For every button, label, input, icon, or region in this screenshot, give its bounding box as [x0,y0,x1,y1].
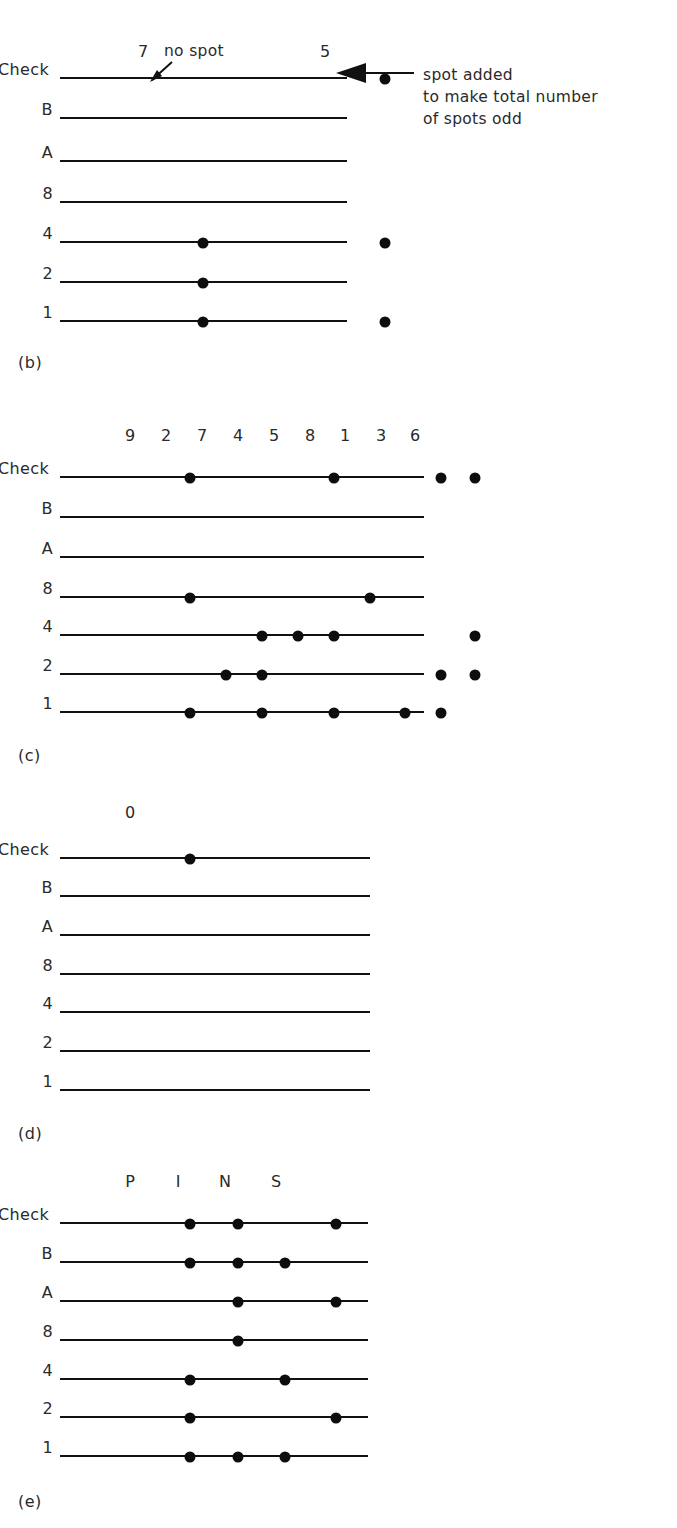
spot [280,1375,291,1386]
column-header: 2 [161,428,171,444]
panel-caption: (c) [18,748,41,764]
spot [470,473,481,484]
spot [185,473,196,484]
row-label: 2 [42,1035,53,1051]
row-label: 8 [42,581,53,597]
spot [436,708,447,719]
spot [185,1219,196,1230]
row-label: B [42,501,53,517]
track-line: 1 [60,1455,368,1457]
spot [185,1413,196,1424]
track-line: 1 [60,711,424,713]
track-line: A [60,934,370,936]
spot [329,473,340,484]
spot [436,473,447,484]
track-line: 1 [60,1089,370,1091]
spot [185,593,196,604]
row-label: Check [0,842,49,858]
spot [436,670,447,681]
spot [470,670,481,681]
track-line: B [60,895,370,897]
spot [331,1297,342,1308]
row-label: 2 [42,1401,53,1417]
spot [400,708,411,719]
track-line: 4 [60,634,424,636]
column-header: 6 [410,428,420,444]
track-line: 8 [60,973,370,975]
row-label: 4 [42,619,53,635]
column-header: 8 [305,428,315,444]
column-header: 7 [197,428,207,444]
spot [185,1375,196,1386]
track-line: B [60,516,424,518]
column-header: 3 [376,428,386,444]
row-label: 8 [42,1324,53,1340]
spot [233,1297,244,1308]
track-line: 4 [60,1011,370,1013]
spot [257,670,268,681]
spot [185,708,196,719]
row-label: 2 [42,658,53,674]
panel-caption: (d) [18,1126,42,1142]
spot [280,1258,291,1269]
spot [221,670,232,681]
spot [233,1336,244,1347]
track-line: Check [60,1222,368,1224]
track-line: 8 [60,1339,368,1341]
panel-caption: (b) [18,355,42,371]
panel-caption: (e) [18,1494,42,1510]
row-label: 4 [42,996,53,1012]
spot [257,708,268,719]
figure-page: { "figure": { "row_labels": ["Check", "B… [0,0,677,1528]
column-header: 1 [340,428,350,444]
column-header: S [271,1174,281,1190]
row-label: Check [0,461,49,477]
track-line: 2 [60,1416,368,1418]
row-label: A [42,919,53,935]
row-label: A [42,1285,53,1301]
spot [185,1258,196,1269]
spot [185,854,196,865]
track-line: B [60,1261,368,1263]
row-label: B [42,880,53,896]
row-label: 1 [42,696,53,712]
column-header: 4 [233,428,243,444]
track-line: A [60,556,424,558]
track-line: Check [60,857,370,859]
column-header: P [125,1174,135,1190]
row-label: 4 [42,1363,53,1379]
track-line: 2 [60,1050,370,1052]
track-line: A [60,1300,368,1302]
spot [329,708,340,719]
spot [365,593,376,604]
spot [233,1452,244,1463]
column-header: I [176,1174,181,1190]
panel-e: P I N S Check B A 8 4 [0,0,677,340]
row-label: Check [0,1207,49,1223]
column-header: 5 [269,428,279,444]
spot [233,1219,244,1230]
column-header: 9 [125,428,135,444]
spot [233,1258,244,1269]
row-label: A [42,541,53,557]
spot [470,631,481,642]
row-label: 1 [42,1074,53,1090]
spot [257,631,268,642]
track-line: 2 [60,673,424,675]
spot [331,1413,342,1424]
track-line: 8 [60,596,424,598]
spot [280,1452,291,1463]
spot [185,1452,196,1463]
column-header: 0 [125,805,135,821]
row-label: 1 [42,1440,53,1456]
row-label: B [42,1246,53,1262]
spot [293,631,304,642]
track-line: Check [60,476,424,478]
spot [331,1219,342,1230]
track-line: 4 [60,1378,368,1380]
column-header: N [219,1174,231,1190]
row-label: 8 [42,958,53,974]
spot [329,631,340,642]
